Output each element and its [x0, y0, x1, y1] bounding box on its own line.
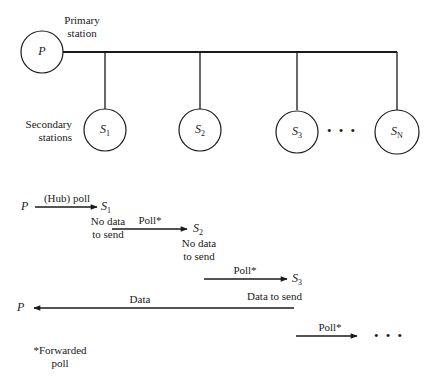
secondary-node-label-n: SN	[376, 124, 418, 140]
node-sub: 2	[199, 228, 203, 237]
secondary-node-label-1: S1	[84, 122, 126, 138]
seq-from-p: P	[21, 200, 28, 213]
secondary-node-label-3: S3	[276, 124, 318, 140]
node-sub: 2	[201, 129, 205, 138]
node-sub: 3	[298, 131, 302, 140]
primary-caption-line1: Primary	[62, 14, 102, 27]
footnote: *Forwarded poll	[30, 344, 90, 370]
seq-poll-next-label: Poll*	[305, 321, 355, 334]
secondary-caption-line2: stations	[10, 131, 72, 144]
node-sub: N	[397, 131, 403, 140]
seq-s1-note: No data to send	[86, 215, 130, 241]
secondary-node-label-2: S2	[179, 122, 221, 138]
seq-ellipsis: • • •	[374, 329, 404, 342]
note-line2: to send	[86, 228, 130, 241]
seq-data-label: Data	[120, 293, 160, 306]
note-line1: No data	[177, 237, 221, 250]
primary-node-label: P	[21, 44, 63, 59]
secondary-stations-caption: Secondary stations	[10, 118, 72, 144]
seq-poll-s3-label: Poll*	[220, 264, 270, 277]
seq-hub-poll-label: (Hub) poll	[35, 192, 99, 205]
seq-to-s3: S3	[292, 272, 302, 289]
note-line1: No data	[86, 215, 130, 228]
secondary-caption-line1: Secondary	[10, 118, 72, 131]
seq-s2-note: No data to send	[177, 237, 221, 263]
topology-ellipsis: • • •	[327, 124, 357, 137]
node-sub: 1	[106, 129, 110, 138]
footnote-line2: poll	[30, 357, 90, 370]
seq-s3-note: Data to send	[247, 290, 302, 303]
primary-caption-line2: station	[62, 27, 102, 40]
node-sub: 3	[298, 278, 302, 287]
footnote-line1: *Forwarded	[30, 344, 90, 357]
seq-poll-s2-label: Poll*	[125, 214, 175, 227]
seq-to-p: P	[17, 301, 24, 314]
note-line2: to send	[177, 250, 221, 263]
node-sub: 1	[107, 206, 111, 215]
primary-station-caption: Primary station	[62, 14, 102, 40]
